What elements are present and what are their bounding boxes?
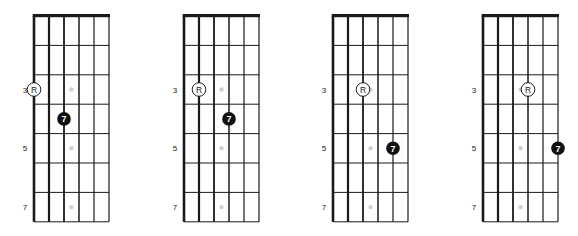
fret-inlay-dot [69,205,73,209]
fret-inlay-dot [69,87,73,91]
root-note-label: R [360,85,366,95]
fret-number-label: 5 [173,144,178,153]
fret-inlay-dot [518,146,522,150]
nut [482,14,559,17]
root-note-label: R [196,85,202,95]
nut [332,14,409,17]
fret-inlay-dot [368,146,372,150]
fret-inlay-dot [219,146,223,150]
fret-inlay-dot [69,146,73,150]
fret-inlay-dot [219,87,223,91]
fret-number-label: 7 [322,203,327,212]
fret-inlay-dot [368,205,372,209]
seventh-note-label: 7 [390,144,395,154]
fret-number-label: 5 [472,144,477,153]
seventh-note-label: 7 [226,114,231,124]
fret-number-label: 7 [472,203,477,212]
seventh-note-label: 7 [61,114,66,124]
fretboard-diagram: 357R7 [472,14,565,222]
fret-inlay-dot [219,205,223,209]
fret-number-label: 3 [173,86,178,95]
fret-inlay-dot [518,205,522,209]
fretboard-diagram: 357R7 [322,14,409,222]
root-note-label: R [525,85,531,95]
root-note-label: R [31,85,37,95]
fretboard-diagram: 357R7 [173,14,260,222]
seventh-note-label: 7 [555,144,560,154]
fret-number-label: 5 [23,144,28,153]
fret-number-label: 3 [322,86,327,95]
fret-number-label: 3 [472,86,477,95]
fretboard-diagrams-figure: 357R7357R7357R7357R7 [0,0,578,236]
nut [33,14,110,17]
fret-number-label: 5 [322,144,327,153]
fret-number-label: 7 [173,203,178,212]
fretboard-diagram: 357R7 [23,14,110,222]
fret-number-label: 7 [23,203,28,212]
nut [183,14,260,17]
